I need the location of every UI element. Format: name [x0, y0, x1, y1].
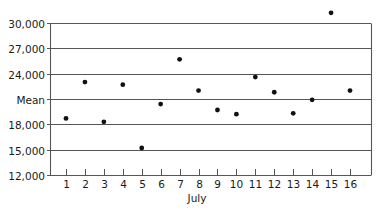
- data-point-day-4: [120, 82, 125, 87]
- x-tick-label: 16: [344, 178, 358, 190]
- y-tick-label: 12,000: [8, 170, 45, 182]
- x-tick-label: 13: [287, 178, 300, 190]
- x-tick-label: 10: [230, 178, 243, 190]
- data-point-day-14: [310, 97, 315, 102]
- y-tick-label: 18,000: [8, 119, 45, 131]
- data-point-day-1: [64, 116, 69, 121]
- data-point-day-8: [196, 88, 201, 93]
- x-tick-label: 4: [120, 178, 127, 190]
- data-point-day-16: [348, 88, 353, 93]
- data-point-day-12: [272, 90, 277, 95]
- x-tick-label: 3: [101, 178, 108, 190]
- x-tick-label: 7: [177, 178, 184, 190]
- data-points: [64, 10, 353, 150]
- x-tick-label: 12: [268, 178, 281, 190]
- y-axis-labels: 30,00027,00024,000Mean18,00015,00012,000: [8, 18, 45, 182]
- data-point-day-3: [101, 119, 106, 124]
- data-point-day-10: [234, 112, 239, 117]
- x-tick-label: 2: [82, 178, 89, 190]
- x-tick-label: 1: [63, 178, 70, 190]
- data-point-day-5: [139, 146, 144, 151]
- gridlines: [47, 24, 371, 176]
- x-tick-label: 5: [139, 178, 146, 190]
- x-tick-label: 11: [249, 178, 262, 190]
- data-point-day-2: [83, 80, 88, 85]
- x-axis-ticks: 12345678910111213141516: [63, 169, 357, 190]
- data-point-day-13: [291, 111, 296, 116]
- y-tick-label: 27,000: [8, 43, 45, 55]
- x-tick-label: 14: [306, 178, 320, 190]
- y-tick-label: 24,000: [8, 69, 45, 81]
- x-axis-title: July: [187, 192, 207, 204]
- x-tick-label: 15: [325, 178, 338, 190]
- data-point-day-15: [329, 10, 334, 15]
- x-tick-label: 9: [214, 178, 221, 190]
- data-point-day-6: [158, 102, 163, 107]
- scatter-chart: 30,00027,00024,000Mean18,00015,00012,000…: [0, 0, 384, 211]
- y-tick-label: 30,000: [8, 18, 45, 30]
- data-point-day-9: [215, 108, 220, 113]
- data-point-day-11: [253, 75, 258, 80]
- y-tick-label: Mean: [16, 94, 45, 106]
- x-tick-label: 6: [158, 178, 165, 190]
- data-point-day-7: [177, 57, 182, 62]
- chart-canvas: 30,00027,00024,000Mean18,00015,00012,000…: [0, 0, 384, 211]
- y-tick-label: 15,000: [8, 145, 45, 157]
- x-tick-label: 8: [196, 178, 203, 190]
